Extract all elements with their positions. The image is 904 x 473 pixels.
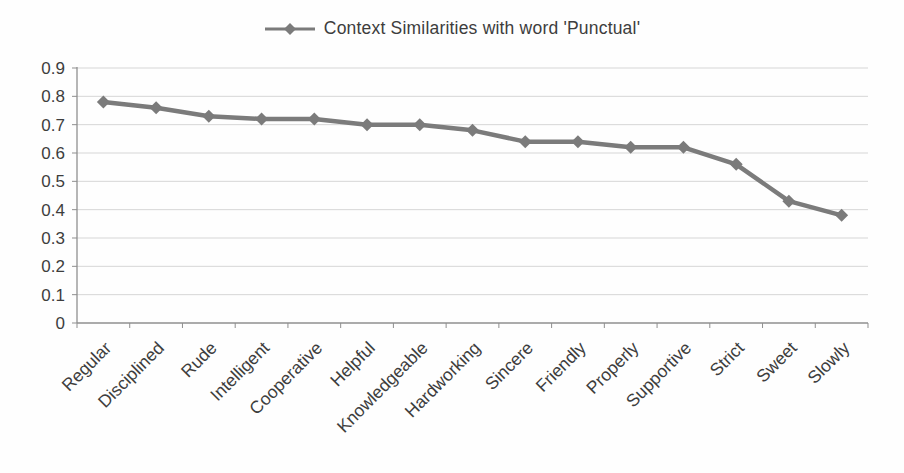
- data-point-marker: [202, 110, 215, 123]
- y-tick-label: 0: [56, 314, 65, 333]
- x-category-label: Sweet: [752, 338, 801, 387]
- data-point-marker: [150, 101, 163, 114]
- data-point-marker: [677, 141, 690, 154]
- y-tick-label: 0.2: [41, 257, 65, 276]
- y-tick-label: 0.6: [41, 144, 65, 163]
- x-category-label: Rude: [177, 338, 221, 382]
- y-tick-label: 0.1: [41, 286, 65, 305]
- chart-container: Context Similarities with word 'Punctual…: [0, 0, 904, 473]
- line-chart-plot: 00.10.20.30.40.50.60.70.80.9RegularDisci…: [0, 0, 904, 473]
- x-category-label: Strict: [706, 338, 748, 380]
- y-tick-label: 0.5: [41, 172, 65, 191]
- data-point-marker: [466, 124, 479, 137]
- x-category-label: Knowledgeable: [333, 338, 432, 437]
- x-category-label: Sincere: [481, 338, 537, 394]
- y-tick-label: 0.7: [41, 116, 65, 135]
- data-point-marker: [308, 113, 321, 126]
- x-category-label: Slowly: [804, 338, 854, 388]
- data-point-marker: [519, 135, 532, 148]
- data-point-marker: [413, 118, 426, 131]
- data-point-marker: [97, 96, 110, 109]
- x-category-label: Friendly: [532, 338, 590, 396]
- data-point-marker: [835, 209, 848, 222]
- data-point-marker: [571, 135, 584, 148]
- data-point-marker: [361, 118, 374, 131]
- data-point-marker: [255, 113, 268, 126]
- y-tick-label: 0.9: [41, 59, 65, 78]
- data-point-marker: [624, 141, 637, 154]
- y-tick-label: 0.3: [41, 229, 65, 248]
- y-tick-label: 0.4: [41, 201, 65, 220]
- x-category-label: Helpful: [326, 338, 379, 391]
- y-tick-label: 0.8: [41, 87, 65, 106]
- series-line: [103, 102, 841, 215]
